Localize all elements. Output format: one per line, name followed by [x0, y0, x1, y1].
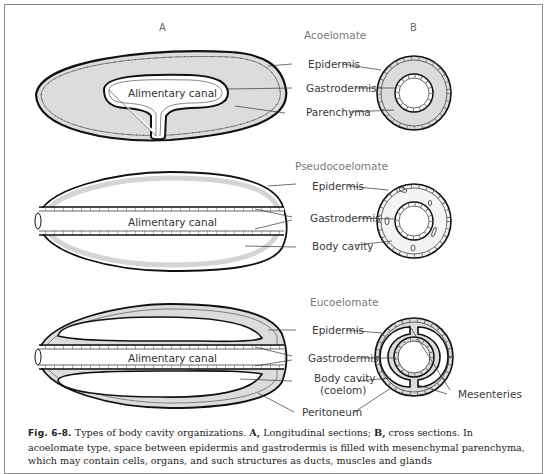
caption-line-1: Fig. 6-8. Types of body cavity organizat…: [28, 426, 528, 441]
gastrodermis-label: Gastrodermis: [310, 212, 381, 224]
panel-title-pseudocoelomate: Pseudocoelomate: [295, 160, 388, 172]
parenchyma-label: Parenchyma: [306, 106, 371, 118]
body-cavity-label: Body cavity: [312, 240, 374, 252]
caption-line-3: which may contain cells, organs, and suc…: [28, 454, 528, 468]
alimentary-canal-label: Alimentary canal: [128, 216, 217, 228]
figure-number: Fig. 6-8.: [28, 428, 72, 438]
body-cavity-label: Body cavity: [314, 372, 376, 384]
caption-line-2: acoelomate type, space between epidermis…: [28, 441, 528, 455]
caption-text: Types of body cavity organizations.: [72, 427, 250, 438]
pseudocoelomate-cross-section: [377, 184, 451, 258]
alimentary-canal-label: Alimentary canal: [128, 352, 217, 364]
acoelomate-cross-section: [377, 56, 451, 130]
figure-caption: Fig. 6-8. Types of body cavity organizat…: [28, 426, 528, 468]
gastrodermis-label: Gastrodermis: [308, 352, 379, 364]
epidermis-label: Epidermis: [308, 58, 360, 70]
panel-title-eucoelomate: Eucoelomate: [310, 296, 379, 308]
epidermis-label: Epidermis: [312, 324, 364, 336]
caption-a-label: A,: [249, 427, 260, 438]
column-label-longitudinal: A: [159, 22, 166, 34]
caption-b-text: cross sections. In: [386, 427, 474, 438]
panel-title-acoelomate: Acoelomate: [304, 29, 366, 41]
epidermis-label: Epidermis: [312, 180, 364, 192]
coelom-label: (coelom): [320, 384, 366, 396]
column-label-cross: B: [410, 22, 417, 34]
gastrodermis-label: Gastrodermis: [306, 82, 377, 94]
alimentary-canal-label: Alimentary canal: [128, 87, 217, 99]
caption-a-text: Longitudinal sections;: [260, 427, 374, 438]
caption-b-label: B,: [374, 427, 385, 438]
peritoneum-label: Peritoneum: [302, 406, 362, 418]
eucoelomate-cross-section: [375, 318, 453, 396]
mesenteries-label: Mesenteries: [458, 388, 522, 400]
